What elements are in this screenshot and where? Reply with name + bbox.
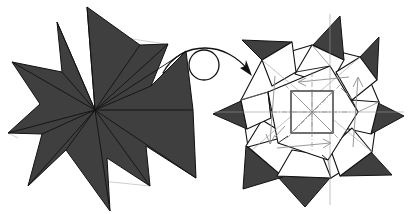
panel-after-twist xyxy=(213,14,404,207)
twist-arrow-loop xyxy=(189,50,219,80)
panel-before-star xyxy=(8,7,196,211)
flap-s xyxy=(277,176,330,207)
star-silhouette xyxy=(8,7,196,211)
figure-canvas xyxy=(0,0,408,214)
origami-twist-fold-figure: Origami twist-fold diagram Eight-pointed… xyxy=(0,0,408,214)
